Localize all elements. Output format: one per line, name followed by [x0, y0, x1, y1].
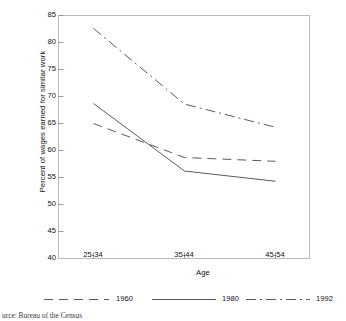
- x-tick-label-45-54: 45-54: [245, 250, 305, 259]
- chart-legend: 1960 1980 1992: [0, 292, 346, 306]
- legend-label-1992: 1992: [316, 292, 333, 306]
- y-tick-marks: [59, 16, 64, 232]
- plot-frame: [59, 16, 310, 259]
- y-tick-label: 85: [30, 11, 56, 19]
- y-tick-label: 45: [30, 227, 56, 235]
- data-series-layer: [94, 28, 276, 181]
- y-tick-label: 60: [30, 146, 56, 154]
- source-note: urce: Bureau of the Census: [2, 311, 82, 320]
- legend-label-1980: 1980: [222, 292, 239, 306]
- y-tick-label: 75: [30, 65, 56, 73]
- y-tick-label: 80: [30, 38, 56, 46]
- y-tick-label: 55: [30, 173, 56, 181]
- series-line-1980: [94, 104, 276, 182]
- y-tick-label: 50: [30, 200, 56, 208]
- x-tick-label-35-44: 35-44: [154, 250, 214, 259]
- chart-figure: Percent of wages earned for similar work…: [0, 0, 346, 321]
- series-line-1960: [94, 124, 276, 162]
- y-axis-tick-labels: 85 80 75 70 65 60 55 50 45 40: [30, 0, 56, 321]
- legend-label-1960: 1960: [116, 292, 133, 306]
- y-tick-label: 40: [30, 254, 56, 262]
- y-tick-label: 70: [30, 92, 56, 100]
- y-tick-label: 65: [30, 119, 56, 127]
- x-axis-title: Age: [93, 268, 313, 277]
- x-tick-label-25-34: 25-34: [63, 250, 123, 259]
- series-line-1992: [94, 28, 276, 127]
